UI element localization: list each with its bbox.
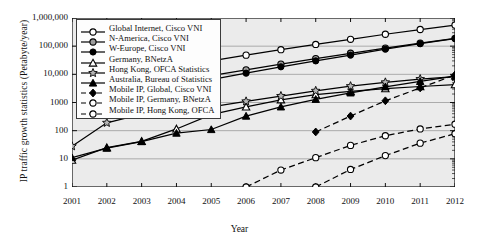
legend-item: Hong Kong, OFCA Statistics bbox=[80, 64, 215, 74]
legend-item: Mobile IP, Germany, BNetzA bbox=[80, 94, 215, 104]
legend-item: N-America, Cisco VNI bbox=[80, 33, 215, 43]
legend-label: Hong Kong, OFCA Statistics bbox=[106, 64, 209, 74]
chart-figure: IP traffic growth statistics (Petabyte/y… bbox=[0, 0, 479, 247]
legend-marker-filled-diamond-icon bbox=[80, 84, 106, 94]
x-tick-label: 2012 bbox=[435, 196, 475, 206]
legend-marker-filled-triangle-icon bbox=[80, 74, 106, 84]
legend-label: Global Internet, Cisco VNI bbox=[106, 23, 202, 33]
legend-marker-open-circle-icon bbox=[80, 105, 106, 115]
legend-label: N-America, Cisco VNI bbox=[106, 33, 189, 43]
legend-item: Mobile IP, Hong Kong, OFCA bbox=[80, 105, 215, 115]
legend-marker-open-circle-icon bbox=[80, 23, 106, 33]
legend-item: Germany, BNetzA bbox=[80, 54, 215, 64]
legend-marker-open-triangle-icon bbox=[80, 54, 106, 64]
legend-label: Mobile IP, Global, Cisco VNI bbox=[106, 84, 212, 94]
legend-label: Mobile IP, Germany, BNetzA bbox=[106, 94, 211, 104]
legend-marker-filled-circle-icon bbox=[80, 43, 106, 53]
legend-marker-gray-star-icon bbox=[80, 64, 106, 74]
legend-marker-gray-circle-icon bbox=[80, 33, 106, 43]
legend-item: Australia, Bureau of Statistics bbox=[80, 74, 215, 84]
legend-item: Mobile IP, Global, Cisco VNI bbox=[80, 84, 215, 94]
x-axis-title: Year bbox=[0, 224, 479, 234]
marker-open-circle bbox=[90, 110, 96, 116]
chart-legend: Global Internet, Cisco VNIN-America, Cis… bbox=[76, 19, 221, 119]
legend-item: W-Europe, Cisco VNI bbox=[80, 43, 215, 53]
legend-marker-open-circle-icon bbox=[80, 94, 106, 104]
legend-label: Germany, BNetzA bbox=[106, 54, 173, 64]
legend-label: Mobile IP, Hong Kong, OFCA bbox=[106, 105, 215, 115]
x-axis-tick-labels: 2001200220032004200520062007200820092010… bbox=[0, 0, 479, 247]
legend-label: Australia, Bureau of Statistics bbox=[106, 74, 212, 84]
legend-item: Global Internet, Cisco VNI bbox=[80, 23, 215, 33]
legend-label: W-Europe, Cisco VNI bbox=[106, 43, 185, 53]
